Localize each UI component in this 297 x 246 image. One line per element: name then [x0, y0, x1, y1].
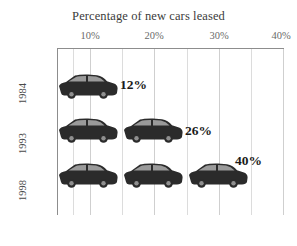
x-axis-tick-20: 20%	[144, 30, 163, 41]
y-axis-label-1984: 1984	[17, 72, 28, 116]
car-icon	[57, 161, 119, 191]
chart-title: Percentage of new cars leased	[0, 9, 297, 24]
car-icon	[57, 116, 119, 146]
car-icon	[122, 161, 184, 191]
x-axis-tick-40: 40%	[271, 30, 290, 41]
pictogram-row-1984: 12%	[57, 72, 284, 112]
value-label-1998: 40%	[235, 153, 262, 169]
value-label-1984: 12%	[120, 77, 147, 93]
value-label-1993: 26%	[185, 123, 212, 139]
pictogram-row-1998: 40%	[57, 161, 284, 201]
x-axis-tick-30: 30%	[209, 30, 228, 41]
y-axis-label-1993: 1993	[17, 122, 28, 166]
pictogram-chart: Percentage of new cars leased 10% 20% 30…	[0, 0, 297, 246]
car-icon	[122, 116, 184, 146]
y-axis-label-1998: 1998	[17, 169, 28, 213]
axis-top-line	[57, 48, 284, 49]
x-axis-tick-10: 10%	[80, 30, 99, 41]
pictogram-row-1993: 26%	[57, 116, 284, 156]
car-icon	[57, 72, 119, 102]
